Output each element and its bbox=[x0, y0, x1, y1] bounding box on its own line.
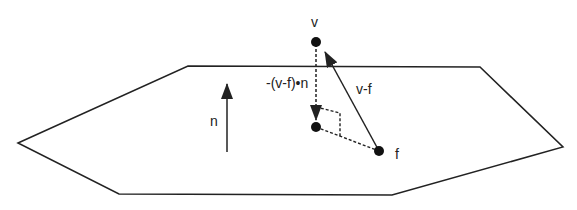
label-neg-projection: -(v-f)•n bbox=[266, 76, 308, 90]
right-angle-marker bbox=[316, 107, 340, 138]
diagram-svg bbox=[0, 0, 577, 210]
label-f: f bbox=[395, 147, 399, 161]
label-v: v bbox=[311, 15, 318, 29]
point-projection bbox=[311, 122, 321, 132]
label-v-minus-f: v-f bbox=[356, 82, 372, 96]
point-f bbox=[374, 146, 384, 156]
diagram-canvas: v f n v-f -(v-f)•n bbox=[0, 0, 577, 210]
point-v bbox=[311, 37, 321, 47]
in-plane-dashed-line bbox=[316, 127, 379, 151]
label-n: n bbox=[210, 114, 218, 128]
